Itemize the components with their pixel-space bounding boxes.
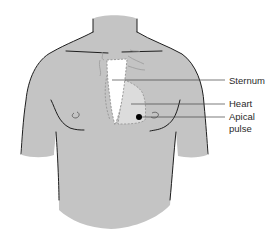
- apical-pulse-dot: [136, 114, 142, 120]
- heart-label: Heart: [229, 98, 252, 109]
- apical-pulse-label-line2: pulse: [229, 123, 252, 134]
- sternum-label: Sternum: [229, 75, 265, 86]
- apical-pulse-label-line1: Apical: [229, 111, 255, 122]
- chest-diagram: Sternum Heart Apical pulse: [0, 0, 278, 251]
